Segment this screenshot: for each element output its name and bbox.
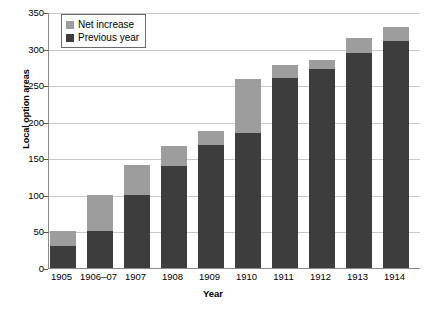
bar-segment-net-increase[interactable] bbox=[87, 195, 113, 232]
bar-segment-previous-year[interactable] bbox=[50, 246, 76, 268]
bar-segment-previous-year[interactable] bbox=[124, 195, 150, 268]
bar-segment-net-increase[interactable] bbox=[346, 38, 372, 53]
legend-item-previous-year: Previous year bbox=[66, 31, 139, 44]
bar-group[interactable] bbox=[124, 165, 150, 268]
bar-group[interactable] bbox=[272, 65, 298, 268]
bar-segment-net-increase[interactable] bbox=[309, 60, 335, 69]
bar-segment-previous-year[interactable] bbox=[235, 133, 261, 268]
bar-segment-previous-year[interactable] bbox=[346, 53, 372, 268]
y-axis-tick-label: 150 bbox=[10, 154, 44, 164]
bar-segment-net-increase[interactable] bbox=[383, 27, 409, 41]
bar-group[interactable] bbox=[309, 60, 335, 268]
y-axis-tick-mark bbox=[43, 269, 48, 270]
bar-segment-previous-year[interactable] bbox=[161, 166, 187, 268]
y-axis-tick-label: 350 bbox=[10, 8, 44, 18]
bar-segment-previous-year[interactable] bbox=[309, 69, 335, 268]
bar-segment-net-increase[interactable] bbox=[50, 231, 76, 246]
bar-segment-previous-year[interactable] bbox=[87, 231, 113, 268]
bar-segment-net-increase[interactable] bbox=[272, 65, 298, 77]
bar-group[interactable] bbox=[198, 131, 224, 269]
bar-group[interactable] bbox=[235, 79, 261, 268]
legend: Net increase Previous year bbox=[61, 14, 146, 48]
legend-swatch-previous-year bbox=[66, 34, 74, 42]
legend-label-net-increase: Net increase bbox=[78, 20, 134, 30]
plot-area bbox=[48, 13, 420, 269]
bar-chart: Local option areas 050100150200250300350… bbox=[0, 0, 426, 314]
y-axis-tick-label: 50 bbox=[10, 227, 44, 237]
x-axis-tick-label: 1914 bbox=[373, 272, 417, 282]
bar-segment-net-increase[interactable] bbox=[161, 146, 187, 166]
gridline bbox=[49, 269, 420, 270]
legend-swatch-net-increase bbox=[66, 21, 74, 29]
bar-segment-net-increase[interactable] bbox=[235, 79, 261, 133]
bar-group[interactable] bbox=[161, 146, 187, 268]
bar-group[interactable] bbox=[87, 195, 113, 268]
bar-segment-net-increase[interactable] bbox=[124, 165, 150, 195]
bar-segment-previous-year[interactable] bbox=[272, 78, 298, 268]
y-axis-tick-label: 100 bbox=[10, 191, 44, 201]
x-axis-title: Year bbox=[0, 288, 426, 299]
bar-segment-previous-year[interactable] bbox=[198, 145, 224, 268]
y-axis-tick-label: 300 bbox=[10, 45, 44, 55]
bar-group[interactable] bbox=[346, 38, 372, 268]
y-axis-tick-label: 250 bbox=[10, 81, 44, 91]
bar-group[interactable] bbox=[383, 27, 409, 268]
bar-group[interactable] bbox=[50, 231, 76, 268]
legend-label-previous-year: Previous year bbox=[78, 33, 139, 43]
legend-item-net-increase: Net increase bbox=[66, 18, 139, 31]
bar-segment-previous-year[interactable] bbox=[383, 41, 409, 268]
y-axis-tick-label: 200 bbox=[10, 118, 44, 128]
bar-segment-net-increase[interactable] bbox=[198, 131, 224, 146]
